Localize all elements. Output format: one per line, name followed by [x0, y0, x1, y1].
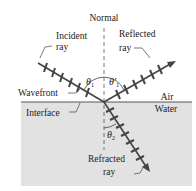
label-reflected-ray: ray — [119, 43, 131, 53]
label-incident-ray: ray — [56, 42, 68, 52]
label-theta1: θ1 — [86, 76, 94, 88]
label-refracted: Refracted — [88, 154, 125, 164]
label-wavefront: Wavefront — [18, 88, 58, 98]
label-air: Air — [161, 92, 175, 102]
label-theta1-prime: θ′1 — [109, 76, 119, 88]
label-water: Water — [155, 104, 178, 114]
label-interface: Interface — [26, 108, 60, 118]
label-refracted-ray: ray — [103, 167, 115, 177]
label-reflected: Reflected — [119, 29, 156, 39]
label-incident: Incident — [56, 31, 87, 41]
refraction-diagram: Normal Incident ray Reflected ray Wavefr… — [0, 0, 196, 191]
label-normal: Normal — [89, 13, 118, 23]
